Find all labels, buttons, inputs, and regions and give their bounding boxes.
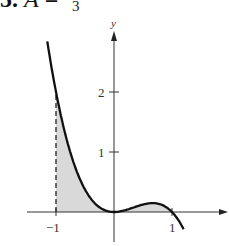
x-tick-label: 1: [169, 220, 176, 235]
x-tick-label: −1: [46, 220, 60, 235]
function-graph: y 12 −11: [0, 0, 229, 246]
y-axis-arrow-icon: [111, 31, 117, 41]
y-ticks: 12: [98, 85, 119, 160]
y-tick-label: 2: [98, 85, 105, 100]
y-axis-label: y: [110, 17, 116, 29]
y-tick-label: 1: [98, 145, 105, 160]
x-axis-arrow-icon: [219, 209, 228, 215]
